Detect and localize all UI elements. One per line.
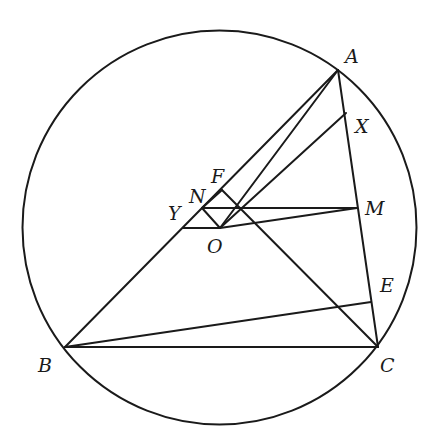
segment-no [202, 208, 220, 228]
label-point-n: N [188, 185, 207, 207]
label-point-m: M [364, 197, 385, 219]
label-point-x: X [353, 115, 370, 137]
segment-om [220, 208, 357, 228]
segments-group [65, 70, 378, 347]
label-point-b: B [37, 354, 52, 376]
segment-be [65, 302, 371, 347]
label-point-c: C [380, 354, 395, 376]
label-point-o: O [207, 235, 223, 257]
label-point-f: F [210, 165, 225, 187]
geometry-diagram: ABCXMEOYNF [0, 0, 435, 442]
segment-fc [222, 190, 378, 347]
segment-ao [220, 70, 338, 228]
label-point-a: A [343, 45, 359, 67]
label-point-y: Y [168, 202, 183, 224]
label-point-e: E [379, 274, 394, 296]
